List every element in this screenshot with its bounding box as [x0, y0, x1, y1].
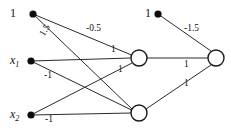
network-graph-canvas [0, 0, 231, 130]
weight-x1-to-hidden-bottom: -1 [44, 71, 52, 81]
label-input-x1-subscript: 1 [15, 60, 19, 69]
weight-bias-to-hidden-top: -0.5 [86, 24, 101, 34]
label-bias-top-right: 1 [145, 7, 151, 19]
edge-x1-to-hidden-bottom [31, 61, 132, 110]
node-input-x2 [27, 111, 34, 118]
node-hidden-bottom [131, 105, 147, 121]
neural-network-diagram: 1 1 x1 x2 1.5 -0.5 1 -1 1 -1 -1.5 1 1 [0, 0, 231, 130]
label-input-x2: x2 [10, 108, 19, 123]
weight-hidden-top-to-output: 1 [184, 60, 189, 70]
label-bias-top-left: 1 [10, 7, 16, 19]
node-hidden-top [131, 50, 147, 66]
label-input-x2-subscript: 2 [15, 114, 19, 123]
label-input-x1: x1 [10, 54, 19, 69]
weight-hidden-bottom-to-output: 1 [184, 79, 189, 89]
weight-x2-to-hidden-top: 1 [118, 65, 123, 75]
node-output [208, 50, 224, 66]
node-bias-top-left [29, 10, 36, 17]
edge-hidden-bottom-to-output [146, 65, 211, 109]
node-bias-top-right [154, 10, 161, 17]
weight-x2-to-hidden-bottom: -1 [45, 115, 53, 125]
weight-bias-to-output: -1.5 [184, 24, 199, 34]
node-input-x1 [27, 57, 34, 64]
weight-x1-to-hidden-top: 1 [111, 45, 116, 55]
